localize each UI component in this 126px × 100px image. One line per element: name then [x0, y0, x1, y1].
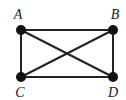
node-label-d: D	[107, 85, 118, 100]
node-label-b: B	[111, 7, 120, 22]
node-a	[16, 25, 26, 35]
edges-group	[21, 30, 113, 77]
node-b	[108, 25, 118, 35]
node-d	[108, 72, 118, 82]
node-c	[16, 72, 26, 82]
graph-diagram: ABCD	[0, 0, 126, 100]
node-label-a: A	[13, 7, 23, 22]
node-label-c: C	[15, 85, 25, 100]
